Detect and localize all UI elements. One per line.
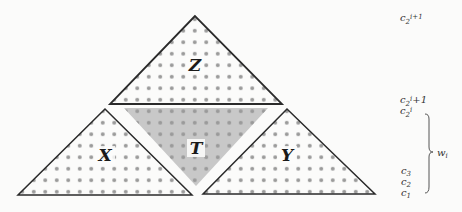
right-brace-icon [425, 114, 433, 193]
side-label-c2i-plus1-top: c2i+1 [400, 12, 423, 26]
label-t: T [190, 138, 204, 158]
label-y: Y [281, 145, 295, 165]
label-z: Z [188, 55, 202, 75]
triangle-decomposition-diagram: Z X Y T c2i+1 c2i+1 c2i c3 c2 c1 wi [0, 0, 462, 212]
label-x: X [97, 145, 112, 165]
svg-text:c2i+1: c2i+1 [400, 12, 423, 26]
brace-label-wi: wi [437, 147, 448, 160]
